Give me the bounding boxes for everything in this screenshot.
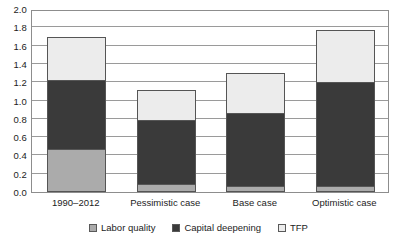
x-tick-label: Base case — [210, 196, 300, 209]
y-tick-label: 1.6 — [13, 42, 27, 52]
y-tick-label: 0.2 — [13, 170, 27, 180]
bar-segment[interactable] — [47, 37, 106, 81]
legend-item[interactable]: Capital deepening — [172, 222, 261, 233]
y-tick-label: 1.0 — [13, 97, 27, 107]
bar-segment[interactable] — [226, 73, 285, 114]
legend-label: Labor quality — [101, 222, 155, 233]
bar-segment[interactable] — [226, 113, 285, 187]
legend-swatch-icon — [278, 224, 286, 232]
y-tick-label: 2.0 — [13, 5, 27, 15]
y-tick-label: 0.4 — [13, 151, 27, 161]
stacked-bar-chart: 2.01.81.61.41.21.00.80.60.40.20.0 1990–2… — [0, 0, 397, 246]
y-tick-label: 0.0 — [13, 188, 27, 198]
y-axis: 2.01.81.61.41.21.00.80.60.40.20.0 — [0, 0, 30, 200]
bar-group[interactable] — [226, 9, 285, 192]
y-tick-label: 0.6 — [13, 133, 27, 143]
bar-group[interactable] — [316, 9, 375, 192]
chart-legend: Labor qualityCapital deepeningTFP — [0, 222, 397, 233]
bar-group[interactable] — [137, 9, 196, 192]
bar-segment[interactable] — [137, 120, 196, 185]
y-tick-label: 0.8 — [13, 115, 27, 125]
bar-segment[interactable] — [137, 184, 196, 192]
y-tick-label: 1.4 — [13, 60, 27, 70]
bar-segment[interactable] — [47, 80, 106, 150]
x-axis: 1990–2012Pessimistic caseBase caseOptimi… — [31, 196, 389, 212]
bar-segment[interactable] — [316, 30, 375, 83]
legend-item[interactable]: TFP — [278, 222, 308, 233]
bar-segment[interactable] — [137, 90, 196, 120]
x-tick-label: Pessimistic case — [121, 196, 211, 209]
legend-label: TFP — [290, 222, 308, 233]
legend-label: Capital deepening — [184, 222, 261, 233]
plot-area — [31, 10, 389, 193]
y-tick-label: 1.8 — [13, 23, 27, 33]
legend-swatch-icon — [89, 224, 97, 232]
bars-layer — [32, 11, 388, 192]
bar-group[interactable] — [47, 9, 106, 192]
bar-segment[interactable] — [47, 149, 106, 192]
legend-swatch-icon — [172, 224, 180, 232]
y-tick-label: 1.2 — [13, 78, 27, 88]
x-tick-label: 1990–2012 — [31, 196, 121, 209]
legend-item[interactable]: Labor quality — [89, 222, 155, 233]
x-tick-label: Optimistic case — [300, 196, 390, 209]
bar-segment[interactable] — [316, 82, 375, 187]
